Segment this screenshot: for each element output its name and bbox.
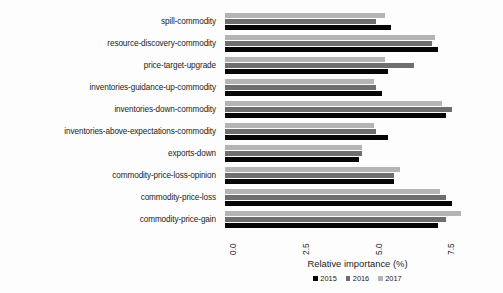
x-tick-label: 7.5 [446, 243, 456, 255]
bar-group [225, 208, 490, 230]
y-axis-category-labels: spill-commodityresource-discovery-commod… [0, 10, 221, 230]
bar-2017-spill-commodity [225, 13, 385, 18]
legend-label: 2017 [385, 274, 401, 283]
bar-2015-exports-down [225, 157, 359, 162]
bar-2017-price-target-upgrade [225, 57, 385, 62]
legend-swatch-icon [346, 276, 351, 281]
bar-2016-resource-discovery-commodity [225, 41, 432, 46]
chart-legend: 201520162017 [225, 274, 490, 283]
bar-chart: spill-commodityresource-discovery-commod… [0, 0, 503, 293]
y-axis-label: spill-commodity [0, 10, 221, 32]
bar-group [225, 54, 490, 76]
bar-2017-inventories-above-expectations-commodity [225, 123, 374, 128]
bar-2015-spill-commodity [225, 25, 391, 30]
bar-2015-commodity-price-gain [225, 223, 438, 228]
bar-2015-commodity-price-loss-opinion [225, 179, 394, 184]
bar-2017-commodity-price-loss-opinion [225, 167, 400, 172]
legend-swatch-icon [378, 276, 383, 281]
bar-group [225, 186, 490, 208]
bar-2016-inventories-down-commodity [225, 107, 452, 112]
bar-2017-exports-down [225, 145, 362, 150]
bar-2016-exports-down [225, 151, 362, 156]
legend-label: 2015 [320, 274, 336, 283]
y-axis-label: inventories-guidance-up-commodity [0, 76, 221, 98]
bar-2017-inventories-guidance-up-commodity [225, 79, 374, 84]
plot-area [225, 10, 490, 230]
x-tick-label: 2.5 [301, 243, 311, 255]
bar-group [225, 76, 490, 98]
bar-group [225, 164, 490, 186]
y-axis-label: inventories-down-commodity [0, 98, 221, 120]
legend-item-2017: 2017 [378, 274, 401, 283]
bar-2016-commodity-price-loss-opinion [225, 173, 394, 178]
bar-2015-inventories-above-expectations-commodity [225, 135, 388, 140]
y-axis-label: resource-discovery-commodity [0, 32, 221, 54]
bar-2016-commodity-price-loss [225, 195, 446, 200]
bar-2015-commodity-price-loss [225, 201, 452, 206]
bar-2015-inventories-down-commodity [225, 113, 446, 118]
legend-item-2016: 2016 [346, 274, 369, 283]
bar-group [225, 10, 490, 32]
x-axis-title: Relative importance (%) [225, 258, 490, 269]
bar-2016-spill-commodity [225, 19, 376, 24]
y-axis-label: price-target-upgrade [0, 54, 221, 76]
bar-2015-price-target-upgrade [225, 69, 388, 74]
y-axis-label: inventories-above-expectations-commodity [0, 120, 221, 142]
bar-2017-inventories-down-commodity [225, 101, 442, 106]
bar-group [225, 120, 490, 142]
y-axis-label: commodity-price-loss-opinion [0, 164, 221, 186]
bar-2015-inventories-guidance-up-commodity [225, 91, 382, 96]
legend-item-2015: 2015 [313, 274, 336, 283]
bar-group [225, 142, 490, 164]
bar-2016-commodity-price-gain [225, 217, 446, 222]
bar-group [225, 32, 490, 54]
bar-2017-commodity-price-gain [225, 211, 461, 216]
bar-2016-price-target-upgrade [225, 63, 414, 68]
legend-label: 2016 [353, 274, 369, 283]
x-tick-label: 0.0 [228, 243, 238, 255]
bar-2016-inventories-above-expectations-commodity [225, 129, 376, 134]
y-axis-label: commodity-price-loss [0, 186, 221, 208]
legend-swatch-icon [313, 276, 318, 281]
bar-2017-commodity-price-loss [225, 189, 440, 194]
x-tick-label: 5.0 [374, 243, 384, 255]
bar-2016-inventories-guidance-up-commodity [225, 85, 376, 90]
y-axis-label: exports-down [0, 142, 221, 164]
bar-group [225, 98, 490, 120]
bar-2017-resource-discovery-commodity [225, 35, 435, 40]
y-axis-label: commodity-price-gain [0, 208, 221, 230]
bar-2015-resource-discovery-commodity [225, 47, 438, 52]
x-axis-tick-labels: 0.02.55.07.5 [225, 231, 490, 257]
